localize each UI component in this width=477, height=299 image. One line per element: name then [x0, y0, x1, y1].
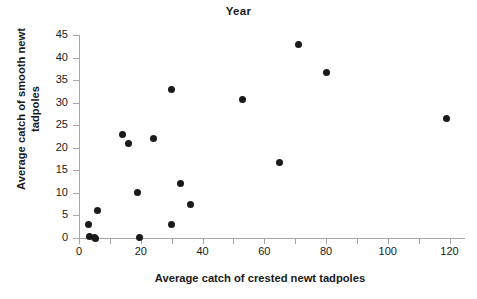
data-point: [150, 135, 157, 142]
data-point: [168, 221, 175, 228]
x-axis-tick-label: 100: [368, 245, 408, 257]
x-axis-tick-label: 60: [244, 245, 284, 257]
data-point: [134, 189, 141, 196]
x-axis-tick: [450, 239, 451, 244]
x-axis-tick-label: 0: [59, 245, 99, 257]
y-axis-tick-label: 5: [38, 208, 68, 220]
x-axis-tick: [233, 239, 234, 244]
scatter-chart: Year Average catch of smooth newt tadpol…: [0, 0, 477, 299]
data-point: [94, 207, 101, 214]
y-axis-tick-label: 10: [38, 186, 68, 198]
x-axis-tick: [295, 239, 296, 244]
x-axis-tick-label: 120: [430, 245, 470, 257]
x-axis-title: Average catch of crested newt tadpoles: [60, 272, 460, 284]
y-axis-tick-label: 15: [38, 163, 68, 175]
plot-area: [79, 35, 465, 238]
y-axis-tick-label: 35: [38, 73, 68, 85]
y-axis-tick-label: 40: [38, 51, 68, 63]
y-axis-tick-label: 25: [38, 118, 68, 130]
data-point: [85, 221, 92, 228]
data-point: [239, 96, 246, 103]
data-point: [168, 86, 175, 93]
x-axis-tick: [203, 239, 204, 244]
data-point: [125, 140, 132, 147]
data-point: [295, 41, 302, 48]
data-point: [443, 115, 450, 122]
x-axis-tick-label: 80: [306, 245, 346, 257]
x-axis-tick: [79, 239, 80, 244]
x-axis-tick: [388, 239, 389, 244]
y-axis-tick-label: 45: [38, 28, 68, 40]
data-point: [323, 69, 330, 76]
data-point: [187, 201, 194, 208]
x-axis-tick: [110, 239, 111, 244]
x-axis-tick: [172, 239, 173, 244]
data-point: [119, 131, 126, 138]
x-axis-tick: [326, 239, 327, 244]
data-point: [136, 234, 143, 241]
data-point: [92, 235, 99, 242]
x-axis-tick-label: 20: [121, 245, 161, 257]
x-axis-tick: [357, 239, 358, 244]
y-axis-tick-label: 30: [38, 96, 68, 108]
x-axis-tick-label: 40: [183, 245, 223, 257]
data-point: [276, 159, 283, 166]
y-axis-tick-label: 0: [38, 231, 68, 243]
y-axis-tick-label: 20: [38, 141, 68, 153]
chart-title: Year: [0, 5, 477, 17]
x-axis-tick: [264, 239, 265, 244]
data-point: [177, 180, 184, 187]
x-axis-tick: [419, 239, 420, 244]
